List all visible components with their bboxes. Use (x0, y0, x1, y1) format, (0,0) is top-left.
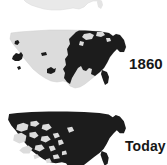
map-early-svg (0, 0, 130, 24)
map-today (2, 108, 130, 165)
map-label-today: Today (125, 139, 166, 153)
settlement-maps-figure: 1860 Today (0, 0, 167, 165)
settlement-southern-california (17, 66, 21, 70)
map-label-1860: 1860 (129, 56, 163, 71)
map-today-svg (2, 108, 130, 165)
map-1860-settled-region (63, 31, 126, 86)
settlement-california (12, 52, 23, 61)
map-early-faint (0, 0, 130, 24)
map-1860 (4, 26, 130, 102)
map-early-landmass (7, 0, 123, 10)
map-1860-svg (4, 26, 130, 102)
